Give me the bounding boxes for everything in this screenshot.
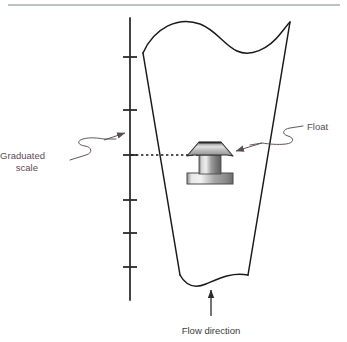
graduated-scale-label-line1: Graduated [0, 150, 45, 161]
flow-direction-label: Flow direction [182, 325, 241, 336]
rotameter-diagram: Graduated scale Float Flow direction [0, 0, 347, 342]
float-label: Float [307, 121, 328, 132]
float-body [199, 155, 221, 174]
float-base-plate [187, 173, 233, 184]
figure-background [0, 0, 347, 342]
graduated-scale-label-line2: scale [16, 162, 38, 173]
